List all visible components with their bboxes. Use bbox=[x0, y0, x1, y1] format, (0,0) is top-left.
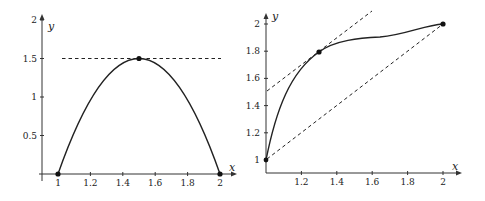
x-axis-label: x bbox=[452, 160, 459, 173]
right-y-arrow-icon bbox=[264, 13, 269, 19]
secant-line bbox=[267, 24, 443, 159]
tick-label: 2 bbox=[254, 19, 260, 29]
tick-label: 1.6 bbox=[148, 178, 163, 188]
tick-label: 0.5 bbox=[23, 131, 38, 141]
figure: 1 1.2 1.4 1.6 1.8 2 0.5 1 1.5 2 y x bbox=[0, 0, 485, 201]
tick-label: 1.2 bbox=[83, 178, 97, 188]
tick-label: 1.5 bbox=[23, 54, 38, 64]
right-chart: 1.2 1.4 1.6 1.8 2 1 1.2 1.4 1.6 1.8 2 y … bbox=[246, 10, 462, 187]
tick-label: 1 bbox=[31, 92, 37, 102]
data-point bbox=[316, 49, 321, 54]
tick-label: 2 bbox=[217, 178, 223, 188]
tick-label: 1.8 bbox=[400, 177, 415, 187]
tick-label: 1 bbox=[254, 155, 260, 165]
tick-label: 2 bbox=[31, 15, 37, 25]
tick-label: 1.4 bbox=[246, 101, 261, 111]
tick-label: 1.8 bbox=[180, 178, 195, 188]
tick-label: 2 bbox=[440, 177, 446, 187]
y-axis-label: y bbox=[47, 20, 55, 33]
tick-label: 1.6 bbox=[365, 177, 380, 187]
tick-label: 1.2 bbox=[294, 177, 308, 187]
tick-label: 1.8 bbox=[246, 46, 261, 56]
x-axis-label: x bbox=[229, 161, 236, 174]
tick-label: 1.2 bbox=[246, 128, 260, 138]
data-point bbox=[217, 171, 222, 176]
right-y-ticks: 1 1.2 1.4 1.6 1.8 2 bbox=[246, 19, 268, 165]
data-point bbox=[136, 56, 141, 61]
data-point bbox=[440, 21, 445, 26]
data-point bbox=[55, 171, 60, 176]
tick-label: 1 bbox=[55, 178, 61, 188]
curve bbox=[266, 24, 443, 160]
tick-label: 1.6 bbox=[246, 73, 261, 83]
parabola-curve bbox=[58, 59, 220, 175]
tick-label: 1.4 bbox=[330, 177, 345, 187]
tick-label: 1.4 bbox=[116, 178, 131, 188]
left-chart: 1 1.2 1.4 1.6 1.8 2 0.5 1 1.5 2 y x bbox=[23, 14, 237, 188]
left-y-arrow-icon bbox=[40, 14, 45, 20]
data-point bbox=[264, 158, 269, 163]
y-axis-label: y bbox=[271, 10, 279, 23]
left-y-ticks: 0.5 1 1.5 2 bbox=[23, 15, 44, 141]
